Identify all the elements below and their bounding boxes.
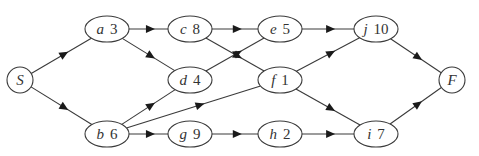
edge-f-to-j [296, 38, 359, 72]
arrowhead-icon [412, 101, 422, 109]
node-name: b [97, 126, 105, 142]
edge-a-to-d [122, 38, 175, 70]
arrowhead-icon [326, 25, 335, 33]
node-d: d4 [168, 67, 212, 93]
arrowhead-icon [325, 103, 335, 111]
node-shape [258, 121, 302, 147]
node-i: i7 [354, 121, 398, 147]
node-b: b6 [85, 121, 129, 147]
node-e: e5 [258, 16, 302, 42]
node-name: d [180, 72, 188, 88]
arrowhead-icon [59, 102, 69, 110]
node-shape [85, 121, 129, 147]
node-f: f1 [258, 67, 302, 93]
node-duration: 3 [110, 21, 118, 37]
node-shape [258, 67, 302, 93]
node-S: S [7, 67, 33, 93]
arrowhead-icon [146, 25, 155, 33]
node-j: j10 [354, 16, 398, 42]
node-duration: 5 [283, 21, 291, 37]
node-name: i [367, 126, 371, 142]
activity-network-diagram: Sa3c8e5j10d4f1Fb6g9h2i7 [0, 0, 479, 156]
nodes-layer: Sa3c8e5j10d4f1Fb6g9h2i7 [7, 16, 465, 147]
node-h: h2 [258, 121, 302, 147]
edge-b-to-g [129, 130, 168, 138]
node-label: F [446, 72, 457, 88]
node-duration: 2 [283, 126, 291, 142]
node-name: g [180, 126, 188, 142]
arrowhead-icon [233, 25, 242, 33]
node-label: j10 [361, 21, 388, 37]
node-g: g9 [168, 121, 212, 147]
edge-c-to-e [212, 25, 258, 33]
node-shape [168, 121, 212, 147]
arrowhead-icon [412, 52, 422, 60]
edge-S-to-a [31, 38, 91, 73]
arrowhead-icon [145, 50, 155, 58]
node-F: F [439, 67, 465, 93]
node-shape [168, 16, 212, 42]
node-duration: 7 [377, 126, 385, 142]
arrowhead-icon [145, 103, 155, 111]
node-name: a [97, 21, 105, 37]
node-a: a3 [85, 16, 129, 42]
edge-e-to-j [302, 25, 354, 33]
edge-f-to-i [296, 89, 360, 125]
node-shape [354, 121, 398, 147]
node-c: c8 [168, 16, 212, 42]
edge-a-to-c [129, 25, 168, 33]
arrowhead-icon [146, 130, 155, 138]
node-duration: 8 [193, 21, 201, 37]
node-name: h [270, 126, 278, 142]
node-duration: 10 [374, 21, 389, 37]
edge-S-to-b [31, 87, 92, 125]
node-duration: 4 [193, 72, 201, 88]
node-duration: 1 [281, 72, 289, 88]
edge-g-to-h [212, 130, 258, 138]
node-shape [168, 67, 212, 93]
edge-j-to-F [391, 39, 442, 73]
arrowhead-icon [326, 130, 335, 138]
arrowhead-icon [233, 130, 242, 138]
edge-i-to-F [390, 88, 441, 124]
arrowhead-icon [58, 52, 68, 60]
node-duration: 6 [110, 126, 118, 142]
node-name: e [270, 21, 277, 37]
node-name: c [180, 21, 187, 37]
node-shape [258, 16, 302, 42]
node-shape [85, 16, 129, 42]
arrowhead-icon [195, 102, 205, 110]
node-label: S [16, 72, 24, 88]
edge-b-to-d [122, 90, 175, 125]
edge-h-to-i [302, 130, 354, 138]
node-duration: 9 [193, 126, 201, 142]
